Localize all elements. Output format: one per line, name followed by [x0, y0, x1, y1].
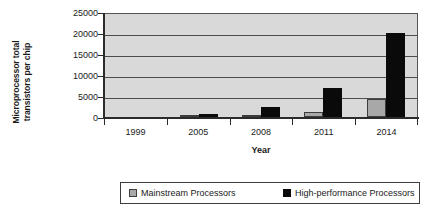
x-axis-tick-marks: [104, 119, 418, 125]
legend-entry[interactable]: High-performance Processors: [275, 188, 415, 199]
y-axis-tick-label: 15000: [48, 50, 98, 60]
x-axis-tick-mark: [167, 119, 168, 125]
bar-2008-highperf: [261, 107, 280, 117]
x-axis-tick-mark: [104, 119, 105, 125]
x-axis-tick-mark: [355, 119, 356, 125]
x-axis-tick-mark: [230, 119, 231, 125]
x-axis-tick-label: 2008: [230, 126, 293, 140]
bar-chart-figure: Microprocessor total transistors per chi…: [0, 0, 438, 214]
x-axis-tick-mark: [292, 119, 293, 125]
x-axis-tick-label: 1999: [104, 126, 167, 140]
y-axis-tick-label: 5000: [48, 92, 98, 102]
y-axis-tick-labels: 2500020000150001000050000: [48, 8, 98, 124]
legend-entry[interactable]: Mainstream Processors: [121, 188, 275, 199]
y-axis-title-line-1: Microprocessor total: [11, 41, 22, 124]
bar-group-1999: [105, 14, 167, 117]
bar-group-2011: [292, 14, 354, 117]
x-axis-tick-label: 2005: [167, 126, 230, 140]
y-axis-line: [103, 13, 105, 119]
plot-area: [104, 13, 418, 118]
legend-label: Mainstream Processors: [141, 188, 236, 199]
y-axis-tick-label: 0: [48, 113, 98, 123]
chart-legend: Mainstream ProcessorsHigh-performance Pr…: [120, 182, 420, 204]
bar-2014-mainstream: [367, 99, 386, 117]
bar-2011-highperf: [323, 88, 342, 117]
y-axis-tick-label: 25000: [48, 8, 98, 18]
y-axis-tick-label: 20000: [48, 29, 98, 39]
x-axis-tick-label: 2011: [292, 126, 355, 140]
bars-layer: [105, 14, 417, 117]
y-axis-title-line-2: transistors per chip: [22, 43, 33, 121]
bar-group-2014: [355, 14, 417, 117]
x-axis-title: Year: [104, 145, 418, 155]
legend-label: High-performance Processors: [295, 188, 415, 199]
y-axis-title: Microprocessor total transistors per chi…: [0, 16, 44, 148]
y-axis-tick-label: 10000: [48, 71, 98, 81]
bar-group-2008: [230, 14, 292, 117]
bar-group-2005: [167, 14, 229, 117]
bar-2014-highperf: [386, 33, 405, 117]
x-axis-tick-label: 2014: [355, 126, 418, 140]
gray-square-icon: [129, 189, 137, 197]
black-square-icon: [283, 189, 291, 197]
x-axis-tick-labels: 19992005200820112014: [104, 126, 418, 140]
x-axis-tick-mark: [417, 119, 418, 125]
